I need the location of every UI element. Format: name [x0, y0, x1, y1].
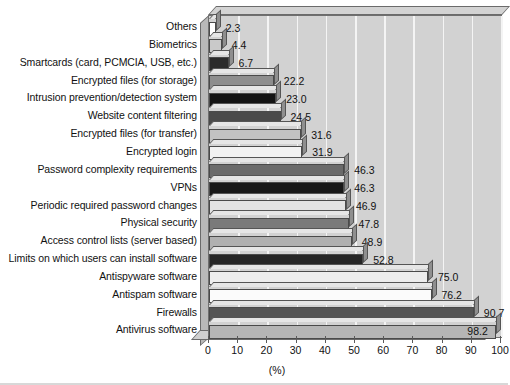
- bar-value-label: 31.6: [306, 127, 331, 144]
- x-tick-mark: [325, 336, 326, 343]
- x-tick-label: 50: [348, 344, 360, 356]
- bar-top-face: [209, 282, 436, 287]
- bar-row: 4.4: [209, 36, 501, 56]
- x-tick-label: 10: [231, 344, 243, 356]
- category-label: Others: [166, 17, 197, 37]
- bar-top-face: [209, 193, 350, 198]
- bar-top-face: [209, 68, 278, 73]
- category-label: Password complexity requirements: [37, 160, 197, 180]
- x-axis-title: (%): [0, 364, 508, 376]
- bar-value-label: 46.3: [349, 180, 374, 197]
- x-tick-label: 40: [319, 344, 331, 356]
- x-axis: 0102030405060708090100: [200, 344, 502, 364]
- x-tick-label: 60: [377, 344, 389, 356]
- category-label: Antispyware software: [99, 267, 197, 287]
- x-tick-label: 100: [491, 344, 509, 356]
- bar-top-face: [209, 300, 478, 305]
- bar-top-face: [209, 317, 500, 322]
- x-tick-label: 0: [205, 344, 211, 356]
- bar-top-face: [209, 85, 281, 90]
- plot-frame-3d: 2.34.46.722.223.024.531.631.946.346.346.…: [200, 6, 502, 344]
- bar-top-face: [209, 121, 306, 126]
- plot-area: 2.34.46.722.223.024.531.631.946.346.346.…: [208, 15, 502, 338]
- category-label: Intrusion prevention/detection system: [27, 88, 197, 108]
- bar-top-face: [209, 210, 353, 215]
- bar-row: 2.3: [209, 19, 501, 39]
- bar-top-face: [209, 264, 433, 269]
- category-label: Firewalls: [156, 303, 197, 323]
- x-tick-label: 20: [261, 344, 273, 356]
- x-tick-mark: [412, 336, 413, 343]
- category-label: Antivirus software: [116, 320, 197, 340]
- plot-top-face: [208, 6, 510, 15]
- x-tick-mark: [237, 336, 238, 343]
- category-label: Encrypted login: [126, 142, 197, 162]
- x-tick-mark: [471, 336, 472, 343]
- bar-top-face: [209, 175, 349, 180]
- category-label: Website content filtering: [88, 106, 197, 126]
- bar-top-face: [209, 103, 285, 108]
- bar-value-label: 98.2: [209, 323, 488, 340]
- x-axis-title-text: (%): [269, 364, 285, 376]
- bar-value-label: 46.3: [349, 162, 374, 179]
- bar-side-face: [496, 313, 501, 335]
- category-axis-labels: OthersBiometricsSmartcards (card, PCMCIA…: [0, 14, 202, 336]
- category-label: VPNs: [171, 178, 197, 198]
- x-tick-label: 80: [436, 344, 448, 356]
- bar-top-face: [209, 157, 349, 162]
- category-label: Periodic required password changes: [31, 196, 197, 216]
- bar-top-face: [209, 228, 356, 233]
- category-label: Biometrics: [149, 35, 197, 55]
- category-label: Limits on which users can install softwa…: [9, 249, 197, 269]
- gridline: [501, 16, 503, 337]
- category-label: Encrypted files (for storage): [71, 71, 197, 91]
- x-tick-label: 90: [465, 344, 477, 356]
- category-label: Antispam software: [112, 285, 197, 305]
- bar-top-face: [209, 139, 307, 144]
- category-label: Access control lists (server based): [41, 231, 197, 251]
- bar-value-label: 22.2: [279, 73, 304, 90]
- bar-value-label: 47.8: [354, 216, 379, 233]
- category-label: Encrypted files (for transfer): [70, 124, 197, 144]
- x-tick-mark: [354, 336, 355, 343]
- x-tick-label: 30: [290, 344, 302, 356]
- category-label: Smartcards (card, PCMCIA, USB, etc.): [20, 53, 197, 73]
- x-tick-mark: [500, 336, 501, 343]
- category-label: Physical security: [121, 213, 198, 233]
- x-tick-mark: [442, 336, 443, 343]
- bar-value-label: 46.9: [351, 198, 376, 215]
- x-tick-label: 70: [407, 344, 419, 356]
- x-tick-mark: [208, 336, 209, 343]
- x-tick-mark: [266, 336, 267, 343]
- x-tick-mark: [383, 336, 384, 343]
- bar-row: 98.2: [209, 322, 501, 342]
- bar-top-face: [209, 246, 368, 251]
- x-tick-mark: [296, 336, 297, 343]
